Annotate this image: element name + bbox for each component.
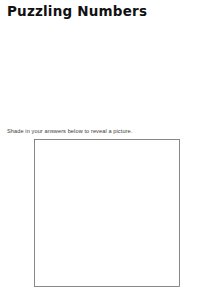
puzzle-border bbox=[35, 140, 180, 287]
worksheet-page: Puzzling Numbers Shade in your answers b… bbox=[0, 0, 212, 294]
page-title: Puzzling Numbers bbox=[7, 3, 147, 19]
puzzle-svg bbox=[34, 139, 180, 287]
instruction-text: Shade in your answers below to reveal a … bbox=[7, 128, 132, 134]
shading-puzzle-grid[interactable] bbox=[34, 139, 180, 287]
